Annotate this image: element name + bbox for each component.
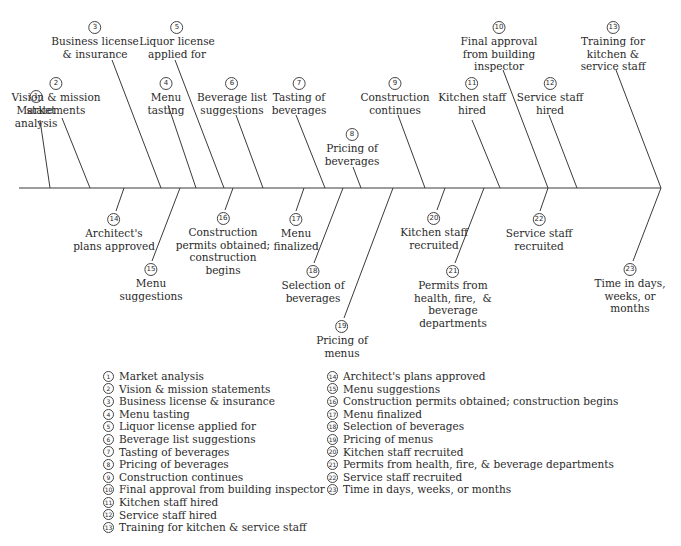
circled-number-icon: 21 xyxy=(327,459,338,470)
milestone-text: Selection of beverages xyxy=(281,279,344,304)
branch-line-16 xyxy=(225,188,233,210)
branch-line-1 xyxy=(40,120,50,188)
legend-text: Vision & mission statements xyxy=(119,383,270,396)
circled-number-icon: 6 xyxy=(225,77,238,90)
milestone-text: Menu tasting xyxy=(148,91,185,116)
circled-number-icon: 19 xyxy=(336,320,349,333)
milestone-text: Time in days, weeks, or months xyxy=(595,277,666,315)
legend-text: Service staff hired xyxy=(119,509,217,522)
circled-number-icon: 3 xyxy=(89,21,102,34)
circled-number-icon: 10 xyxy=(493,21,506,34)
milestone-label-8: 8Pricing of beverages xyxy=(325,128,380,167)
legend-item: 15Menu suggestions xyxy=(327,383,618,396)
circled-number-icon: 10 xyxy=(103,484,114,495)
milestone-text: Training for kitchen & service staff xyxy=(581,35,646,73)
branch-line-9 xyxy=(398,115,425,188)
legend-item: 16Construction permits obtained; constru… xyxy=(327,395,618,408)
milestone-text: Final approval from building inspector xyxy=(461,35,538,73)
milestone-label-4: 4Menu tasting xyxy=(148,77,185,116)
circled-number-icon: 20 xyxy=(428,212,441,225)
circled-number-icon: 12 xyxy=(543,77,556,90)
legend-text: Service staff recruited xyxy=(343,471,462,484)
circled-number-icon: 11 xyxy=(103,497,114,508)
legend-item: 12Service staff hired xyxy=(103,509,325,522)
legend-item: 11Kitchen staff hired xyxy=(103,496,325,509)
milestone-label-2: 2Vision & mission statements xyxy=(11,77,100,116)
branch-line-7 xyxy=(296,115,325,188)
legend-text: Training for kitchen & service staff xyxy=(119,521,306,534)
circled-number-icon: 14 xyxy=(108,213,121,226)
circled-number-icon: 2 xyxy=(103,383,114,394)
circled-number-icon: 14 xyxy=(327,371,338,382)
circled-number-icon: 9 xyxy=(103,472,114,483)
milestone-text: Permits from health, fire, & beverage de… xyxy=(414,279,492,329)
circled-number-icon: 23 xyxy=(624,263,637,276)
legend-item: 23Time in days, weeks, or months xyxy=(327,483,618,496)
milestone-text: Tasting of beverages xyxy=(272,91,327,116)
milestone-label-3: 3Business license & insurance xyxy=(51,21,139,60)
circled-number-icon: 5 xyxy=(170,21,183,34)
milestone-label-23: 23Time in days, weeks, or months xyxy=(595,263,666,315)
milestone-label-14: 14Architect's plans approved xyxy=(73,213,155,252)
circled-number-icon: 5 xyxy=(103,421,114,432)
circled-number-icon: 16 xyxy=(217,212,230,225)
legend-text: Selection of beverages xyxy=(343,420,464,433)
branch-line-17 xyxy=(296,188,304,211)
circled-number-icon: 15 xyxy=(327,383,338,394)
legend-text: Liquor license applied for xyxy=(119,420,256,433)
milestone-label-16: 16Construction permits obtained; constru… xyxy=(176,212,270,276)
circled-number-icon: 6 xyxy=(103,434,114,445)
legend-text: Menu suggestions xyxy=(343,383,440,396)
milestone-label-15: 15Menu suggestions xyxy=(119,263,182,302)
milestone-text: Beverage list suggestions xyxy=(197,91,267,116)
milestone-text: Business license & insurance xyxy=(51,35,139,60)
milestone-text: Pricing of beverages xyxy=(325,142,380,167)
legend-text: Permits from health, fire, & beverage de… xyxy=(343,458,614,471)
legend-item: 9Construction continues xyxy=(103,471,325,484)
legend-item: 18Selection of beverages xyxy=(327,420,618,433)
milestone-label-21: 21Permits from health, fire, & beverage … xyxy=(414,265,492,329)
branch-line-20 xyxy=(437,188,445,210)
milestone-label-20: 20Kitchen staff recruited xyxy=(400,212,468,251)
milestone-text: Pricing of menus xyxy=(316,334,368,359)
legend-text: Beverage list suggestions xyxy=(119,433,256,446)
legend-text: Pricing of beverages xyxy=(119,458,229,471)
circled-number-icon: 22 xyxy=(532,213,545,226)
circled-number-icon: 13 xyxy=(103,522,114,533)
legend-item: 5Liquor license applied for xyxy=(103,420,325,433)
circled-number-icon: 16 xyxy=(327,396,338,407)
circled-number-icon: 20 xyxy=(327,446,338,457)
legend-text: Kitchen staff hired xyxy=(119,496,218,509)
milestone-label-12: 12Service staff hired xyxy=(517,77,583,116)
branch-line-19 xyxy=(344,188,393,318)
branch-line-8 xyxy=(353,167,361,188)
circled-number-icon: 13 xyxy=(606,21,619,34)
legend-text: Construction continues xyxy=(119,471,243,484)
milestone-text: Architect's plans approved xyxy=(73,227,155,252)
legend-item: 22Service staff recruited xyxy=(327,471,618,484)
milestone-label-6: 6Beverage list suggestions xyxy=(197,77,267,116)
branch-line-22 xyxy=(540,188,548,211)
circled-number-icon: 3 xyxy=(103,396,114,407)
circled-number-icon: 18 xyxy=(306,265,319,278)
legend-text: Tasting of beverages xyxy=(119,446,229,459)
milestone-label-19: 19Pricing of menus xyxy=(316,320,368,359)
legend-item: 14Architect's plans approved xyxy=(327,370,618,383)
milestone-text: Service staff recruited xyxy=(506,227,572,252)
milestone-text: Construction continues xyxy=(360,91,429,116)
legend-item: 2Vision & mission statements xyxy=(103,383,325,396)
milestone-label-11: 11Kitchen staff hired xyxy=(438,77,506,116)
circled-number-icon: 19 xyxy=(327,434,338,445)
branch-line-23 xyxy=(633,188,661,261)
legend-item: 21Permits from health, fire, & beverage … xyxy=(327,458,618,471)
legend-item: 20Kitchen staff recruited xyxy=(327,446,618,459)
circled-number-icon: 22 xyxy=(327,472,338,483)
legend-left-column: 1Market analysis2Vision & mission statem… xyxy=(103,370,325,534)
branch-line-4 xyxy=(168,105,196,188)
milestone-label-22: 22Service staff recruited xyxy=(506,213,572,252)
milestone-text: Kitchen staff hired xyxy=(438,91,506,116)
milestone-text: Menu finalized xyxy=(273,227,318,252)
legend-item: 10Final approval from building inspector xyxy=(103,483,325,496)
circled-number-icon: 12 xyxy=(103,509,114,520)
circled-number-icon: 2 xyxy=(50,77,63,90)
